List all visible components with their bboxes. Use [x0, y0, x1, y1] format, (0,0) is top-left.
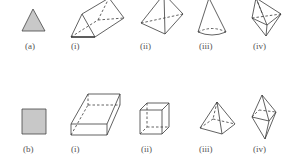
label-a-ii: (ii)	[140, 41, 151, 51]
label-b-i: (i)	[71, 144, 80, 154]
label-b-ii: (ii)	[141, 144, 152, 154]
triangular-pyramid-shape	[141, 0, 183, 34]
label-a-iv: (iv)	[253, 41, 266, 51]
label-a-iii: (iii)	[199, 41, 213, 51]
triangular-prism-shape	[71, 0, 124, 37]
square-pyramid-shape	[200, 102, 235, 134]
label-a: (a)	[25, 41, 35, 51]
triangle-shape	[22, 9, 45, 31]
label-b-iv: (iv)	[253, 144, 266, 154]
cube-shape	[140, 103, 169, 134]
triangular-bipyramid-shape	[252, 0, 281, 36]
cone-shape	[198, 0, 226, 35]
square-bipyramid-shape	[252, 95, 276, 139]
square-shape	[22, 109, 46, 134]
label-a-i: (i)	[71, 41, 80, 51]
label-b: (b)	[23, 144, 34, 154]
label-b-iii: (iii)	[199, 144, 213, 154]
solids-figure	[0, 0, 290, 160]
rectangular-box-shape	[71, 94, 120, 135]
